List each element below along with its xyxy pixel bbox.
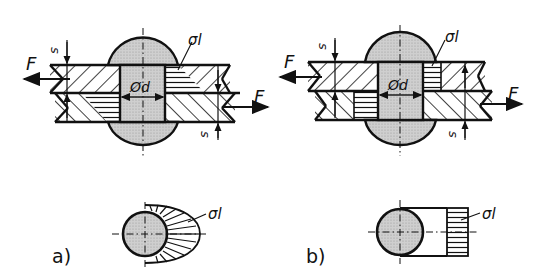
thickness-label-top-b: s [316, 43, 331, 50]
stress-zone-top-b [423, 62, 441, 91]
stress-zone-bottom-b [354, 91, 378, 120]
stress-label-b: σl [445, 28, 460, 46]
stress-label-plan-a: σl [208, 205, 223, 223]
thickness-label-bottom-b: s [446, 131, 461, 138]
force-label-right-b: F [508, 83, 519, 104]
stress-label-plan-b: σl [482, 205, 497, 223]
diameter-label-b: Ød [387, 77, 408, 93]
panel-caption-b: b) [306, 245, 325, 267]
plan-view-a [112, 202, 208, 268]
stress-label-a: σl [188, 31, 203, 49]
force-label-left-b: F [284, 51, 295, 72]
thickness-label-top-a: s [48, 47, 63, 54]
rivet-bearing-stress-diagram: F F s s Ød σl [0, 0, 542, 280]
plan-view-b [368, 200, 480, 264]
panel-caption-a: a) [52, 245, 71, 267]
force-label-left-a: F [26, 53, 37, 74]
panel-b: F F s s Ød σl σl b) [280, 25, 522, 267]
panel-a: F F s s Ød σl [24, 28, 268, 268]
diameter-label-a: Ød [129, 79, 150, 95]
thickness-label-bottom-a: s [198, 131, 213, 138]
force-label-right-a: F [254, 86, 265, 107]
